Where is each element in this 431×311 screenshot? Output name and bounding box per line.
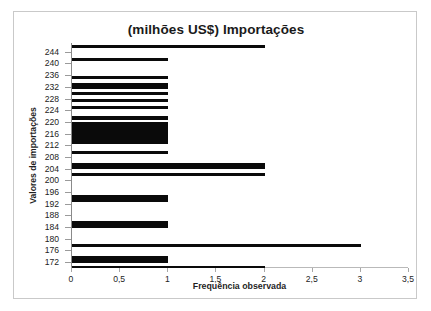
- y-tick-mark: [65, 63, 71, 64]
- bar-217: [72, 151, 168, 154]
- bar-231: [72, 92, 168, 95]
- y-tick-mark: [65, 180, 71, 181]
- x-tick-mark: [167, 268, 168, 272]
- x-tick-mark: [312, 268, 313, 272]
- y-tick-mark: [65, 87, 71, 88]
- x-axis-title: Frequência observada: [71, 281, 408, 291]
- y-tick-mark: [65, 204, 71, 205]
- y-tick-label: 228: [19, 94, 59, 104]
- y-tick-label: 172: [19, 257, 59, 267]
- bar-221: [72, 122, 168, 144]
- bar-227: [72, 106, 168, 110]
- y-tick-mark: [65, 169, 71, 170]
- y-tick-mark: [65, 157, 71, 158]
- y-tick-mark: [65, 52, 71, 53]
- y-tick-mark: [65, 99, 71, 100]
- bar-246: [72, 45, 265, 48]
- y-tick-label: 180: [19, 234, 59, 244]
- plot-wrapper: 1721761801841881921962002042082122162202…: [59, 43, 408, 275]
- y-tick-mark: [65, 227, 71, 228]
- x-tick-mark: [360, 268, 361, 272]
- x-tick-mark: [408, 268, 409, 272]
- y-tick-label: 188: [19, 210, 59, 220]
- y-tick-label: 240: [19, 58, 59, 68]
- bar-184: [72, 244, 361, 247]
- y-tick-label: 224: [19, 105, 59, 115]
- x-tick-mark: [71, 268, 72, 272]
- y-tick-label: 200: [19, 175, 59, 185]
- y-tick-mark: [65, 75, 71, 76]
- y-tick-label: 236: [19, 70, 59, 80]
- y-tick-label: 220: [19, 117, 59, 127]
- bar-204: [72, 195, 168, 202]
- bar-229: [72, 99, 168, 102]
- bar-213: [72, 163, 265, 170]
- bar-176: [72, 256, 168, 263]
- y-tick-label: 216: [19, 129, 59, 139]
- y-tick-label: 192: [19, 199, 59, 209]
- x-tick-mark: [119, 268, 120, 272]
- y-tick-mark: [65, 122, 71, 123]
- bar-172: [72, 266, 265, 269]
- y-tick-mark: [65, 215, 71, 216]
- y-tick-label: 244: [19, 47, 59, 57]
- plot-area: [71, 43, 408, 268]
- bar-236: [72, 76, 168, 79]
- bar-192: [72, 221, 168, 228]
- y-tick-label: 176: [19, 245, 59, 255]
- y-tick-mark: [65, 262, 71, 263]
- y-tick-label: 212: [19, 140, 59, 150]
- bar-210: [72, 173, 265, 176]
- y-tick-mark: [65, 192, 71, 193]
- y-tick-mark: [65, 110, 71, 111]
- y-tick-label: 232: [19, 82, 59, 92]
- bar-242: [72, 58, 168, 61]
- y-tick-mark: [65, 145, 71, 146]
- y-tick-mark: [65, 134, 71, 135]
- y-tick-label: 184: [19, 222, 59, 232]
- y-tick-label: 208: [19, 152, 59, 162]
- chart-title: (milhões US$) Importações: [14, 22, 418, 37]
- x-tick-mark: [264, 268, 265, 272]
- x-tick-mark: [215, 268, 216, 272]
- bar-224: [72, 116, 168, 120]
- y-tick-mark: [65, 250, 71, 251]
- y-tick-label: 196: [19, 187, 59, 197]
- y-tick-label: 204: [19, 164, 59, 174]
- chart-container: (milhões US$) Importações Valores de imp…: [13, 11, 417, 299]
- y-tick-mark: [65, 239, 71, 240]
- bar-234: [72, 83, 168, 90]
